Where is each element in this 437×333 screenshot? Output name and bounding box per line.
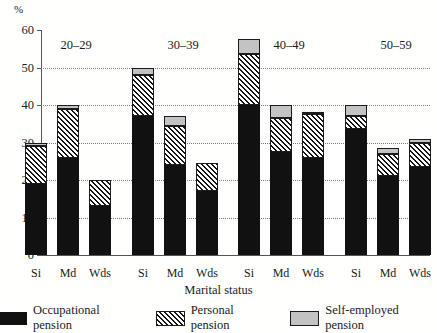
category-label: Md [167, 266, 184, 281]
bar-40-49-Si [238, 30, 260, 255]
y-tick-mark [37, 255, 41, 256]
bar-segment-occupational [164, 165, 186, 255]
bar-30-39-Si [132, 30, 154, 255]
bar-20-29-Md [57, 30, 79, 255]
category-label: Wds [409, 266, 431, 281]
bar-segment-occupational [89, 206, 111, 255]
bar-segment-occupational [302, 158, 324, 256]
bar-30-39-Md [164, 30, 186, 255]
bar-segment-occupational [270, 152, 292, 255]
bar-50-59-Md [377, 30, 399, 255]
legend-label-self-employed: Self-employed pension [325, 303, 437, 333]
bar-segment-personal [57, 109, 79, 158]
group-label: 50–59 [380, 38, 411, 53]
bar-segment-personal [345, 116, 367, 129]
category-label: Wds [196, 266, 218, 281]
category-label: Si [138, 266, 148, 281]
bar-segment-personal [196, 163, 218, 191]
category-label: Si [31, 266, 41, 281]
bar-segment-personal [89, 180, 111, 206]
y-axis-unit-label: % [14, 3, 23, 15]
category-label: Md [60, 266, 77, 281]
bar-segment-occupational [345, 129, 367, 255]
group-label: 30–39 [167, 38, 198, 53]
bar-40-49-Wds [302, 30, 324, 255]
legend-item-occupational: Occupational pension [0, 303, 138, 333]
bar-segment-occupational [132, 116, 154, 255]
legend-label-personal: Personal pension [191, 303, 273, 333]
group-label: 20–29 [60, 38, 91, 53]
bar-segment-self-employed [57, 105, 79, 109]
bar-segment-occupational [25, 184, 47, 255]
bar-segment-occupational [409, 167, 431, 255]
bar-40-49-Md [270, 30, 292, 255]
category-label: Md [380, 266, 397, 281]
bar-segment-personal [132, 75, 154, 116]
bar-segment-occupational [377, 176, 399, 255]
bar-segment-personal [377, 154, 399, 177]
bar-segment-personal [164, 126, 186, 165]
bar-segment-self-employed [270, 105, 292, 118]
bar-segment-personal [409, 143, 431, 167]
category-label: Si [351, 266, 361, 281]
bar-segment-self-employed [302, 112, 324, 114]
bar-segment-self-employed [132, 68, 154, 76]
bar-segment-self-employed [377, 148, 399, 154]
category-label: Wds [302, 266, 324, 281]
legend-item-self-employed: Self-employed pension [290, 303, 437, 333]
chart-legend: Occupational pension Personal pension Se… [0, 303, 437, 333]
bar-segment-personal [25, 146, 47, 184]
bar-segment-personal [238, 54, 260, 105]
legend-label-occupational: Occupational pension [33, 303, 138, 333]
bar-segment-occupational [196, 191, 218, 255]
category-label: Md [273, 266, 290, 281]
bar-segment-personal [302, 114, 324, 157]
solid-grey-swatch-icon [290, 311, 319, 326]
bar-segment-self-employed [345, 105, 367, 116]
bar-segment-self-employed [164, 116, 186, 125]
bar-20-29-Wds [89, 30, 111, 255]
category-label: Wds [89, 266, 111, 281]
x-axis-line [41, 255, 430, 256]
bar-50-59-Wds [409, 30, 431, 255]
bar-30-39-Wds [196, 30, 218, 255]
x-axis-title: Marital status [0, 283, 437, 298]
hatched-swatch-icon [156, 311, 185, 326]
bar-segment-self-employed [25, 143, 47, 147]
bar-50-59-Si [345, 30, 367, 255]
bar-segment-self-employed [409, 139, 431, 143]
bar-segment-occupational [238, 105, 260, 255]
bar-20-29-Si [25, 30, 47, 255]
group-label: 40–49 [273, 38, 304, 53]
bar-segment-occupational [57, 158, 79, 256]
category-label: Si [244, 266, 254, 281]
solid-black-swatch-icon [0, 312, 27, 325]
legend-item-personal: Personal pension [156, 303, 273, 333]
bar-segment-self-employed [238, 39, 260, 54]
bar-segment-personal [270, 118, 292, 152]
